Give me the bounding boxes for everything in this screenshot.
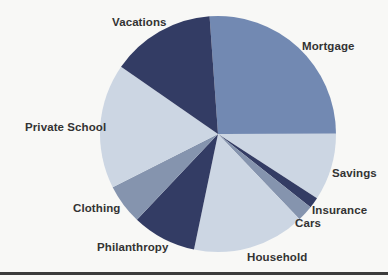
label-mortgage: Mortgage xyxy=(302,40,355,52)
label-clothing: Clothing xyxy=(73,202,120,214)
label-savings: Savings xyxy=(332,167,377,179)
label-insurance: Insurance xyxy=(312,204,367,216)
bottom-rule xyxy=(0,272,388,275)
label-philanthropy: Philanthropy xyxy=(97,241,168,253)
pie-chart-figure: Vacations Mortgage Private School Saving… xyxy=(0,0,388,280)
pie-slice-mortgage xyxy=(210,16,336,134)
label-private-school: Private School xyxy=(25,121,106,133)
label-cars: Cars xyxy=(295,217,321,229)
label-household: Household xyxy=(247,251,307,263)
label-vacations: Vacations xyxy=(112,16,167,28)
